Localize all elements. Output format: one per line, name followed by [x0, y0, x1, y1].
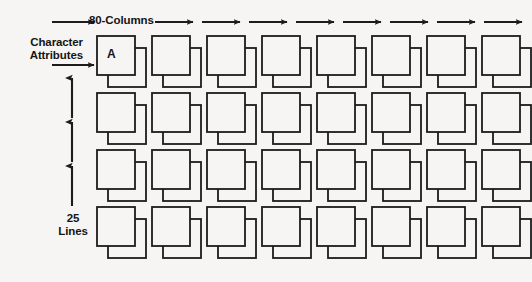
character-plane-square	[317, 93, 355, 132]
character-cell	[207, 93, 256, 144]
character-plane-square	[152, 207, 190, 246]
character-plane-square	[427, 207, 465, 246]
sample-character-glyph: A	[107, 47, 116, 61]
character-plane-square	[262, 36, 300, 75]
character-plane-square	[207, 150, 245, 189]
lines-count-label: 25 Lines	[53, 212, 93, 238]
character-plane-square	[262, 93, 300, 132]
character-plane-square	[207, 36, 245, 75]
character-cell	[97, 207, 146, 258]
lines-count-label-line2: Lines	[53, 225, 93, 238]
character-plane-square	[317, 36, 355, 75]
character-plane-square	[372, 150, 410, 189]
character-plane-square	[97, 36, 135, 75]
character-plane-square	[372, 36, 410, 75]
character-plane-square	[207, 93, 245, 132]
character-cell	[152, 36, 201, 87]
character-cell	[317, 207, 366, 258]
character-plane-square	[152, 150, 190, 189]
character-cell	[262, 207, 311, 258]
character-plane-square	[482, 93, 520, 132]
character-cell	[262, 36, 311, 87]
character-cell	[372, 150, 421, 201]
columns-label: 80-Columns	[89, 14, 154, 27]
character-cell	[207, 36, 256, 87]
character-plane-square	[317, 207, 355, 246]
character-cell	[152, 93, 201, 144]
character-cell	[207, 150, 256, 201]
character-cell	[372, 93, 421, 144]
character-plane-square	[372, 93, 410, 132]
character-cell	[372, 207, 421, 258]
character-plane-square	[152, 36, 190, 75]
character-cell	[482, 207, 531, 258]
character-plane-square	[427, 93, 465, 132]
character-cell	[317, 150, 366, 201]
character-cell	[262, 93, 311, 144]
character-cell	[152, 207, 201, 258]
character-cell	[97, 150, 146, 201]
character-display-diagram: 80-Columns Character Attributes 25 Lines…	[0, 0, 532, 282]
character-plane-square	[482, 150, 520, 189]
character-cell	[427, 93, 476, 144]
character-plane-square	[262, 207, 300, 246]
character-plane-square	[482, 207, 520, 246]
character-plane-square	[97, 150, 135, 189]
character-cell-grid	[97, 36, 531, 258]
character-plane-square	[97, 207, 135, 246]
character-cell	[317, 93, 366, 144]
character-plane-square	[262, 150, 300, 189]
character-attributes-label-line1: Character	[23, 36, 83, 49]
character-cell	[317, 36, 366, 87]
character-cell	[97, 93, 146, 144]
character-plane-square	[482, 36, 520, 75]
character-attributes-label: Character Attributes	[23, 36, 83, 62]
character-attributes-label-line2: Attributes	[23, 49, 83, 62]
character-cell	[482, 36, 531, 87]
character-cell	[427, 150, 476, 201]
character-cell	[482, 150, 531, 201]
character-plane-square	[97, 93, 135, 132]
character-plane-square	[152, 93, 190, 132]
character-cell	[207, 207, 256, 258]
character-cell	[482, 93, 531, 144]
character-plane-square	[427, 36, 465, 75]
character-cell	[372, 36, 421, 87]
character-cell	[152, 150, 201, 201]
character-plane-square	[317, 150, 355, 189]
lines-count-label-line1: 25	[53, 212, 93, 225]
character-plane-square	[207, 207, 245, 246]
character-plane-square	[427, 150, 465, 189]
character-cell	[262, 150, 311, 201]
character-cell	[427, 36, 476, 87]
character-cell	[427, 207, 476, 258]
character-plane-square	[372, 207, 410, 246]
character-cell	[97, 36, 146, 87]
